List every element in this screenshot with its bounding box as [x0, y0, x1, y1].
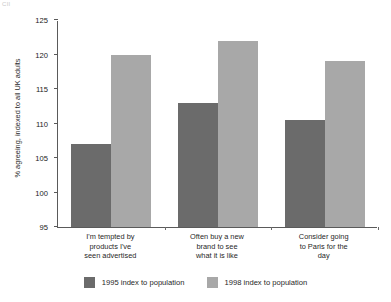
bar — [218, 41, 258, 227]
corner-mark: CII — [2, 0, 11, 8]
category-label-line: Consider going — [270, 232, 377, 242]
x-axis-separator — [271, 227, 272, 230]
bars-layer — [58, 21, 377, 227]
x-axis-separator — [165, 227, 166, 230]
y-tick-label: 115 — [14, 89, 48, 90]
bar — [325, 61, 365, 227]
category-label-line: I'm tempted by — [57, 232, 164, 242]
x-axis-category-label: I'm tempted byproducts I'veseen advertis… — [57, 232, 164, 261]
category-label-line: Often buy a new — [164, 232, 271, 242]
category-label-line: to Paris for the — [270, 242, 377, 252]
y-tick-label: 125 — [14, 20, 48, 21]
category-label-line: seen advertised — [57, 251, 164, 261]
y-tick: 125 — [54, 19, 58, 20]
y-tick-label: 120 — [14, 55, 48, 56]
bar — [285, 120, 325, 227]
y-axis-title: % agreeing, indexed to all UK adults — [13, 0, 23, 28]
category-label-line: brand to see — [164, 242, 271, 252]
category-label-line: products I've — [57, 242, 164, 252]
legend-swatch-icon — [207, 277, 218, 288]
x-axis-category-label: Often buy a newbrand to seewhat it is li… — [164, 232, 271, 261]
bar — [71, 144, 111, 227]
legend-swatch-icon — [84, 277, 95, 288]
x-axis-category-label: Consider goingto Paris for theday — [270, 232, 377, 261]
y-tick-label: 100 — [14, 193, 48, 194]
bar — [178, 103, 218, 227]
y-tick-label: 105 — [14, 158, 48, 159]
plot-area: 95100105110115120125 — [57, 21, 377, 228]
bar-chart: CII % agreeing, indexed to all UK adults… — [0, 0, 391, 302]
legend-item[interactable]: 1995 index to population — [84, 277, 185, 288]
legend-item[interactable]: 1998 index to population — [207, 277, 308, 288]
y-tick-label: 110 — [14, 124, 48, 125]
legend-label: 1995 index to population — [102, 277, 185, 288]
category-label-line: day — [270, 251, 377, 261]
category-label-line: what it is like — [164, 251, 271, 261]
y-tick-label: 95 — [14, 227, 48, 228]
chart-legend: 1995 index to population1998 index to po… — [0, 277, 391, 288]
x-axis-separator — [378, 227, 379, 230]
x-axis-category-labels: I'm tempted byproducts I'veseen advertis… — [57, 232, 377, 266]
bar — [111, 55, 151, 228]
legend-label: 1998 index to population — [225, 277, 308, 288]
